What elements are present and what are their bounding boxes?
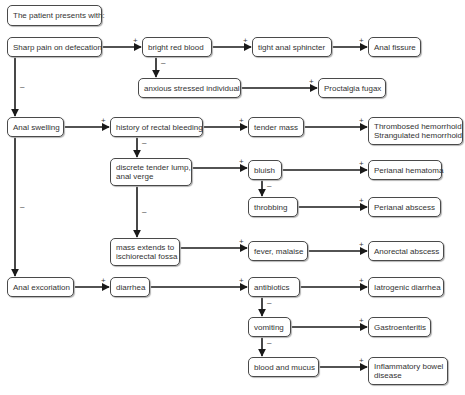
node-vomiting: vomiting: [248, 317, 291, 337]
plus-sign-label: +: [243, 37, 248, 45]
plus-sign-label: +: [239, 238, 244, 246]
node-label: antibiotics: [254, 283, 290, 292]
node-label: Gastroenteritis: [374, 323, 426, 332]
plus-sign-label: +: [133, 37, 138, 45]
node-antibiotics: antibiotics: [248, 277, 300, 297]
minus-sign-label: –: [142, 139, 146, 147]
node-label: Inflammatory bowel disease: [374, 362, 443, 380]
node-perianal-hematoma: Perianal hematoma: [368, 160, 442, 180]
node-discrete-lump: discrete tender lump, anal verge: [110, 158, 192, 186]
minus-sign-label: –: [161, 59, 165, 67]
plus-sign-label: +: [309, 78, 314, 86]
node-label: Proctalgia fugax: [324, 84, 381, 93]
node-tight-sphincter: tight anal sphincter: [252, 37, 332, 57]
node-diarrhea: diarrhea: [110, 277, 150, 297]
plus-sign-label: +: [359, 241, 364, 249]
node-sharp-pain: Sharp pain on defecation: [7, 37, 102, 57]
node-gastroenteritis: Gastroenteritis: [368, 317, 431, 337]
node-label: Thrombosed hemorrhoid Strangulated hemor…: [374, 122, 462, 140]
node-history-bleeding: history of rectal bleeding: [110, 117, 203, 137]
node-tender-mass: tender mass: [248, 117, 304, 137]
plus-sign-label: +: [239, 158, 244, 166]
node-label: tight anal sphincter: [258, 43, 325, 52]
node-anal-swelling: Anal swelling: [7, 117, 64, 137]
node-proctalgia: Proctalgia fugax: [318, 78, 386, 98]
node-label: tender mass: [254, 123, 298, 132]
node-label: blood and mucus: [254, 363, 315, 372]
node-bluish: bluish: [248, 160, 282, 180]
node-label: discrete tender lump, anal verge: [116, 163, 191, 181]
node-label: Perianal abscess: [374, 203, 435, 212]
node-label: throbbing: [254, 203, 287, 212]
node-label: Perianal hematoma: [374, 166, 443, 175]
node-perianal-abscess: Perianal abscess: [368, 197, 441, 217]
minus-sign-label: –: [267, 299, 271, 307]
node-label: Sharp pain on defecation: [13, 43, 102, 52]
plus-sign-label: +: [239, 277, 244, 285]
node-blood-mucus: blood and mucus: [248, 357, 319, 377]
plus-sign-label: +: [101, 277, 106, 285]
plus-sign-label: +: [359, 277, 364, 285]
node-mass-extends: mass extends to ischiorectal fossa: [110, 238, 180, 266]
node-label: Anorectal abscess: [374, 247, 439, 256]
node-label: history of rectal bleeding: [116, 123, 203, 132]
node-bright-red: bright red blood: [142, 37, 212, 57]
node-label: Iatrogenic diarrhea: [374, 283, 441, 292]
node-hemorrhoid: Thrombosed hemorrhoid Strangulated hemor…: [368, 117, 463, 145]
node-label: Anal swelling: [13, 123, 60, 132]
minus-sign-label: –: [267, 339, 271, 347]
minus-sign-label: –: [267, 182, 271, 190]
plus-sign-label: +: [359, 197, 364, 205]
plus-sign-label: +: [359, 160, 364, 168]
node-label: anxious stressed individual: [144, 84, 240, 93]
plus-sign-label: +: [359, 357, 364, 365]
node-label: vomiting: [254, 323, 284, 332]
node-fever: fever, malaise: [248, 241, 308, 261]
node-label: bright red blood: [148, 43, 204, 52]
node-label: Anal fissure: [374, 43, 416, 52]
node-label: The patient presents with:: [13, 11, 105, 20]
node-anal-fissure: Anal fissure: [368, 37, 421, 57]
node-throbbing: throbbing: [248, 197, 298, 217]
minus-sign-label: –: [20, 83, 24, 91]
node-label: bluish: [254, 166, 275, 175]
minus-sign-label: –: [20, 203, 24, 211]
node-label: Anal excoriation: [13, 283, 70, 292]
plus-sign-label: +: [101, 117, 106, 125]
plus-sign-label: +: [359, 317, 364, 325]
node-anal-excoriation: Anal excoriation: [7, 277, 74, 297]
node-start: The patient presents with:: [7, 5, 102, 26]
plus-sign-label: +: [239, 117, 244, 125]
node-anorectal-abscess: Anorectal abscess: [368, 241, 444, 261]
minus-sign-label: –: [142, 208, 146, 216]
node-label: fever, malaise: [254, 247, 303, 256]
plus-sign-label: +: [359, 117, 364, 125]
node-ibd: Inflammatory bowel disease: [368, 357, 448, 385]
node-label: mass extends to ischiorectal fossa: [116, 243, 177, 261]
plus-sign-label: +: [359, 37, 364, 45]
node-label: diarrhea: [116, 283, 145, 292]
node-iatrogenic: Iatrogenic diarrhea: [368, 277, 444, 297]
node-anxious: anxious stressed individual: [138, 78, 241, 98]
